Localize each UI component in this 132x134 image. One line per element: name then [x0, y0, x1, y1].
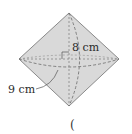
- bottom-mark: (: [70, 118, 75, 132]
- double-cone-diagram: 8 cm 9 cm (: [0, 0, 132, 134]
- height-label: 8 cm: [72, 41, 100, 54]
- radius-label: 9 cm: [8, 83, 36, 96]
